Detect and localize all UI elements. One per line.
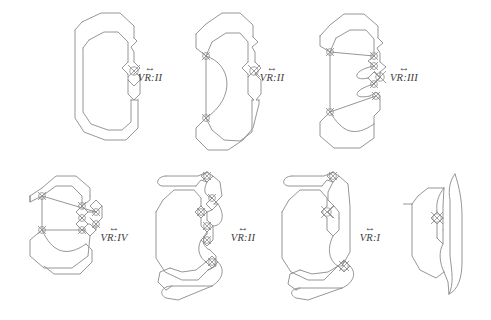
double-arrow-icon: ↔ (348, 224, 392, 231)
move-label-6-text: VR:I (348, 232, 392, 243)
move-label-6: ↔ VR:I (348, 224, 392, 243)
move-label-5: ↔ VR:II (219, 224, 267, 243)
virtual-knot-move-sequence-figure: ↔ VR:II ↔ VR:II ↔ VR:III ↔ VR:IV ↔ VR:II… (0, 0, 491, 320)
virtual-crossing (203, 172, 211, 180)
virtual-knot-diagram-5 (156, 172, 222, 300)
move-label-4-text: VR:IV (88, 232, 140, 243)
virtual-crossing (208, 258, 216, 266)
double-arrow-icon: ↔ (219, 224, 267, 231)
virtual-crossing (78, 214, 86, 222)
virtual-crossing (329, 172, 337, 180)
double-arrow-icon: ↔ (88, 224, 140, 231)
virtual-crossing (370, 80, 378, 88)
move-label-3-text: VR:III (378, 72, 430, 83)
virtual-crossing (203, 236, 211, 244)
double-arrow-icon: ↔ (378, 64, 430, 71)
virtual-crossing (203, 222, 211, 230)
double-arrow-icon: ↔ (126, 64, 174, 71)
virtual-knot-diagram-3 (320, 14, 386, 148)
virtual-knot-diagram-6 (282, 172, 354, 300)
move-label-1-text: VR:II (126, 72, 174, 83)
move-label-4: ↔ VR:IV (88, 224, 140, 243)
virtual-crossing (208, 194, 216, 202)
move-label-2: ↔ VR:II (248, 64, 296, 83)
knot-diagrams-canvas (0, 0, 491, 320)
virtual-crossing (370, 62, 378, 70)
double-arrow-icon: ↔ (248, 64, 296, 71)
virtual-crossing (321, 206, 333, 218)
virtual-crossing (372, 92, 380, 100)
move-label-3: ↔ VR:III (378, 64, 430, 83)
virtual-knot-diagram-7 (404, 174, 462, 294)
virtual-crossing (431, 212, 443, 224)
move-label-2-text: VR:II (248, 72, 296, 83)
virtual-crossing (197, 208, 205, 216)
move-label-5-text: VR:II (219, 232, 267, 243)
move-label-1: ↔ VR:II (126, 64, 174, 83)
